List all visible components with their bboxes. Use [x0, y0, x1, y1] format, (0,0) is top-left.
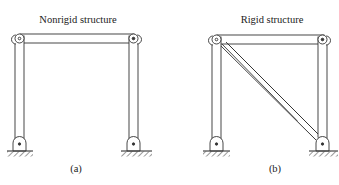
right-column [129, 36, 138, 140]
structure-comparison-figure: Nonrigid structure [0, 0, 339, 185]
right-pinned-support-icon [309, 137, 338, 157]
left-column [212, 37, 221, 140]
top-right-pin-joint-icon [318, 35, 331, 45]
right-pinned-support-icon [121, 137, 152, 157]
top-left-pin-joint-icon [12, 34, 25, 44]
top-beam [20, 34, 134, 43]
panel-b-label: (b) [269, 163, 282, 175]
left-pinned-support-icon [7, 137, 33, 157]
top-beam [217, 35, 324, 44]
left-pinned-support-icon [203, 137, 230, 157]
panel-a: Nonrigid structure [7, 14, 152, 175]
top-right-pin-joint-icon [129, 34, 142, 44]
panel-b: Rigid structure [203, 14, 338, 175]
panel-b-title: Rigid structure [241, 14, 304, 25]
panel-a-title: Nonrigid structure [39, 14, 117, 25]
right-column [318, 37, 327, 140]
panel-a-label: (a) [70, 163, 82, 175]
top-left-pin-joint-icon [209, 35, 222, 45]
left-column [15, 36, 24, 140]
